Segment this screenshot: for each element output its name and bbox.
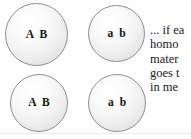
horizontal-divider xyxy=(0,133,191,134)
cell-circle-bottom-right: a b xyxy=(88,74,146,132)
cell-label-top-right: a b xyxy=(106,28,127,40)
cell-circle-top-right: a b xyxy=(88,5,145,62)
cell-circle-top-left: A B xyxy=(5,3,68,66)
cell-label-top-left: A B xyxy=(24,29,49,41)
cell-label-bottom-left: A B xyxy=(27,97,52,109)
gamete-genotype-figure: A B a b A B a b ... if ea homo mater goe… xyxy=(0,0,191,139)
cell-circle-bottom-left: A B xyxy=(10,74,68,132)
caption-line: mater xyxy=(150,52,191,66)
caption-line: goes t xyxy=(150,66,191,80)
caption-line: ... if ea xyxy=(150,23,191,37)
cell-label-bottom-right: a b xyxy=(106,97,127,109)
caption-line: homo xyxy=(150,37,191,51)
caption-line: in me xyxy=(150,80,191,94)
caption-text-block: ... if ea homo mater goes t in me xyxy=(150,23,191,113)
